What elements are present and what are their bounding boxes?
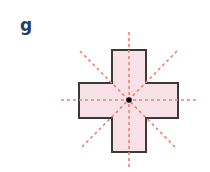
center-point (126, 97, 132, 103)
cross-diagram (0, 0, 210, 172)
